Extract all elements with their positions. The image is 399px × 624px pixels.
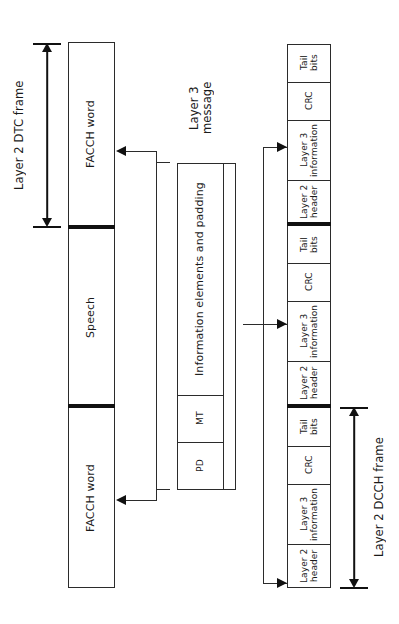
arrowhead-dcch-frame3	[277, 578, 287, 588]
segment-f1-tail-bits: Tail bits	[287, 44, 331, 82]
label-layer2-dtc-frame: Layer 2 DTC frame	[6, 43, 32, 227]
segment-facch-word-bottom: FACCH word	[68, 408, 115, 588]
dtc-frame-measure-arrow	[38, 43, 56, 227]
segment-f3-layer2-header: Layer 2 header	[287, 544, 331, 588]
l3msg-left-bracket-vertical	[156, 162, 157, 490]
label-layer2-dcch-frame: Layer 2 DCCH frame	[366, 407, 392, 588]
segment-f2-crc: CRC	[287, 263, 331, 301]
l3msg-left-bracket-top-tick	[156, 162, 170, 163]
segment-f1-crc: CRC	[287, 82, 331, 120]
label-layer3-message: Layer 3 message	[186, 60, 216, 156]
arrowhead-facch-top	[116, 146, 126, 156]
l3msg-right-bracket-top-tick	[224, 163, 236, 164]
arrowhead-dcch-frame2	[277, 319, 287, 329]
segment-pd: PD	[177, 442, 224, 490]
dcch-frame-measure-arrow	[345, 407, 363, 588]
l3msg-left-bracket-bottom-tick	[156, 489, 170, 490]
connector-l3msg-to-dcch-spine	[263, 147, 264, 584]
segment-f1-layer2-header: Layer 2 header	[287, 180, 331, 223]
segment-f2-tail-bits: Tail bits	[287, 226, 331, 263]
connector-l3msg-to-facch-top-horizontal	[125, 151, 157, 152]
diagram-canvas: Layer 2 DTC frame FACCH word Speech FACC…	[0, 0, 399, 624]
segment-f3-layer3-information: Layer 3 information	[287, 484, 331, 544]
arrowhead-dcch-frame1	[277, 142, 287, 152]
segment-f3-crc: CRC	[287, 446, 331, 484]
l3msg-right-bracket-vertical	[235, 163, 236, 490]
arrowhead-facch-bottom	[116, 495, 126, 505]
segment-f2-layer2-header: Layer 2 header	[287, 361, 331, 405]
segment-speech: Speech	[68, 229, 115, 405]
connector-l3msg-to-facch-bottom-horizontal	[125, 500, 157, 501]
segment-f3-tail-bits: Tail bits	[287, 408, 331, 446]
segment-facch-word-top: FACCH word	[68, 42, 115, 227]
segment-mt: MT	[177, 395, 224, 442]
segment-information-elements-and-padding: Information elements and padding	[177, 163, 224, 395]
segment-f2-layer3-information: Layer 3 information	[287, 301, 331, 361]
l3msg-right-bracket-bottom-tick	[224, 489, 236, 490]
segment-f1-layer3-information: Layer 3 information	[287, 120, 331, 180]
